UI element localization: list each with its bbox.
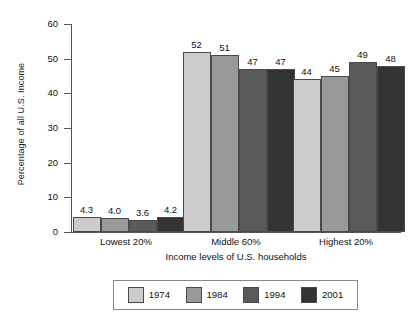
bar-value-label: 47	[261, 57, 301, 67]
bar	[293, 79, 321, 232]
legend-swatch	[186, 287, 202, 303]
legend-swatch	[243, 287, 259, 303]
legend-swatch	[301, 287, 317, 303]
bars-layer: 4.34.03.64.25251474744454948	[0, 0, 418, 324]
bar	[267, 69, 295, 232]
x-axis-category-label: Middle 60%	[181, 236, 291, 248]
legend-label: 1984	[207, 290, 228, 300]
x-axis-category-label: Lowest 20%	[71, 236, 181, 248]
x-axis-category-label: Highest 20%	[291, 236, 401, 248]
bar-value-label: 48	[371, 54, 411, 64]
bar	[73, 217, 101, 232]
legend-label: 1994	[264, 290, 285, 300]
x-axis-title: Income levels of U.S. households	[71, 251, 401, 263]
bar	[211, 55, 239, 232]
legend-label: 2001	[322, 290, 343, 300]
legend-swatch	[128, 287, 144, 303]
bar	[377, 66, 405, 232]
legend-item: 1974	[128, 287, 170, 303]
bar	[157, 217, 185, 232]
legend: 1974198419942001	[113, 280, 358, 310]
bar-value-label: 51	[205, 43, 245, 53]
bar	[101, 218, 129, 232]
bar	[183, 52, 211, 232]
legend-item: 2001	[301, 287, 343, 303]
bar	[349, 62, 377, 232]
bar	[321, 76, 349, 232]
bar	[239, 69, 267, 232]
legend-label: 1974	[149, 290, 170, 300]
bar	[129, 220, 157, 232]
legend-item: 1994	[243, 287, 285, 303]
bar-chart: Percentage of all U.S. Income 0102030405…	[0, 0, 418, 324]
legend-item: 1984	[186, 287, 228, 303]
